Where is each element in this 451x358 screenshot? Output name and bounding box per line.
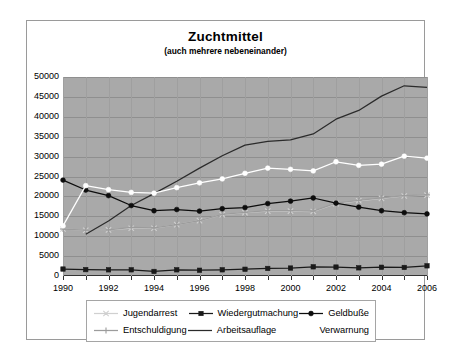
y-tick-label: 25000: [9, 171, 59, 181]
legend-marker-icon: [298, 308, 324, 319]
legend-item-wiedergutmachung[interactable]: Wiedergutmachung: [188, 308, 299, 319]
x-tick: [359, 276, 360, 280]
title-block: Zuchtmittel (auch mehrere nebeneinander): [27, 29, 424, 57]
legend-label: Jugendarrest: [123, 308, 177, 319]
series-wiedergutmachung: [61, 264, 429, 274]
y-tick-label: 0: [9, 270, 59, 280]
x-tick: [177, 276, 178, 280]
x-tick: [245, 276, 246, 280]
series-layer: [63, 77, 427, 276]
x-tick: [222, 276, 223, 280]
x-tick: [404, 276, 405, 280]
y-tick-label: 40000: [9, 111, 59, 121]
x-tick: [382, 276, 383, 280]
legend-label: Entschuldigung: [123, 325, 187, 336]
chart-frame: Zuchtmittel (auch mehrere nebeneinander)…: [26, 20, 425, 340]
y-tick-label: 35000: [9, 131, 59, 141]
y-tick-label: 5000: [9, 250, 59, 260]
y-tick-label: 10000: [9, 230, 59, 240]
legend-row: EntschuldigungArbeitsauflageVerwarnung: [93, 322, 369, 339]
legend-label: Geldbuße: [328, 308, 369, 319]
legend-marker-icon: [188, 308, 214, 319]
chart-subtitle: (auch mehrere nebeneinander): [27, 45, 424, 57]
y-tick-label: 50000: [9, 71, 59, 81]
legend-marker-icon: [93, 308, 119, 319]
y-tick-label: 30000: [9, 151, 59, 161]
legend-item-jugendarrest[interactable]: Jugendarrest: [93, 308, 188, 319]
legend-label: Verwarnung: [319, 325, 369, 336]
x-tick: [154, 276, 155, 280]
legend-item-verwarnung[interactable]: Verwarnung: [289, 325, 369, 336]
legend-label: Arbeitsauflage: [217, 325, 276, 336]
x-tick-label: 1994: [134, 283, 174, 293]
x-tick: [291, 276, 292, 280]
x-tick: [313, 276, 314, 280]
legend-item-entschuldigung[interactable]: Entschuldigung: [93, 325, 187, 336]
x-tick: [109, 276, 110, 280]
legend-row: JugendarrestWiedergutmachungGeldbuße: [93, 305, 369, 322]
x-tick: [131, 276, 132, 280]
x-tick: [336, 276, 337, 280]
x-tick: [86, 276, 87, 280]
x-tick-label: 1996: [180, 283, 220, 293]
x-tick-label: 1992: [89, 283, 129, 293]
chart-legend: JugendarrestWiedergutmachungGeldbußeEnts…: [86, 300, 376, 342]
legend-item-arbeitsauflage[interactable]: Arbeitsauflage: [187, 325, 290, 336]
chart-title: Zuchtmittel: [27, 29, 424, 45]
y-tick-label: 15000: [9, 210, 59, 220]
y-tick-label: 20000: [9, 190, 59, 200]
x-tick-label: 2002: [316, 283, 356, 293]
x-tick-label: 1990: [43, 283, 83, 293]
legend-item-geldbu-e[interactable]: Geldbuße: [298, 308, 369, 319]
legend-marker-icon: [289, 325, 315, 336]
vertical-gridline: [427, 77, 428, 276]
x-tick-label: 2006: [407, 283, 447, 293]
x-tick: [268, 276, 269, 280]
x-tick: [427, 276, 428, 280]
legend-marker-icon: [93, 325, 119, 336]
x-tick: [63, 276, 64, 280]
x-tick: [200, 276, 201, 280]
series-verwarnung: [61, 154, 430, 228]
x-tick-label: 1998: [225, 283, 265, 293]
x-tick-label: 2004: [362, 283, 402, 293]
legend-marker-icon: [187, 325, 213, 336]
plot-region: 0500010000150002000025000300003500040000…: [63, 77, 427, 276]
y-tick-label: 45000: [9, 91, 59, 101]
legend-label: Wiedergutmachung: [218, 308, 299, 319]
x-tick-label: 2000: [271, 283, 311, 293]
